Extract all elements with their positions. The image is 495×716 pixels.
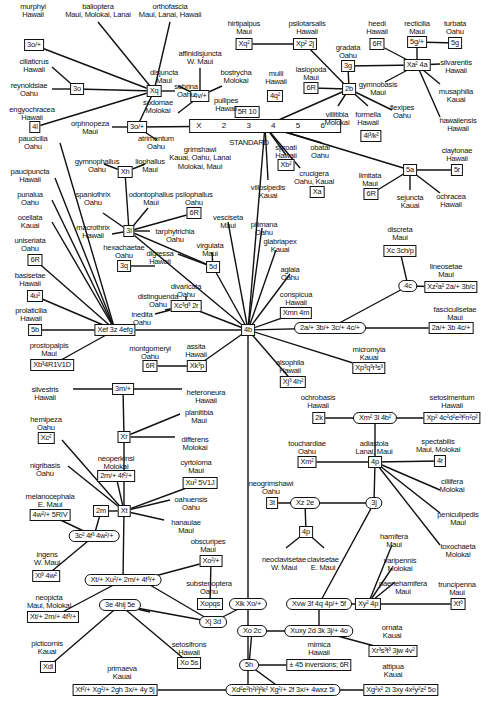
species-label: paucipunctaHawaii xyxy=(11,168,50,185)
karyotype-node-setosi_b: Xo 5s xyxy=(177,657,201,669)
connector-line xyxy=(228,222,248,330)
species-label: sodomaeMolokai xyxy=(143,99,173,116)
karyotype-node-xo2c: Xo 2c xyxy=(237,625,267,637)
karyotype-node-prola_b: 5b xyxy=(28,324,42,336)
karyotype-node-3t: 3t xyxy=(266,497,278,509)
karyotype-node-clay_b: 5r xyxy=(451,164,463,176)
karyotype-node-inv_b: ± 45 inversions; 6R xyxy=(286,659,351,671)
species-label: musaphiliaKauai xyxy=(439,88,473,105)
connector-line xyxy=(52,200,115,330)
karyotype-node-xt: Xt xyxy=(118,505,131,517)
karyotype-node-also_b: Xj³ 4h² xyxy=(280,376,306,388)
species-label: fasciculisetaeMaui xyxy=(434,306,477,323)
species-label: hawaiiensisHawaii xyxy=(439,117,476,134)
species-label: disjunctaMaui xyxy=(150,69,178,86)
species-label: flexipesOahu xyxy=(390,104,414,121)
karyotype-node-attipua_b: Xg²x² 2i 3xy 4x²y²z² 5o xyxy=(363,684,438,696)
karyotype-node-2b: 2b xyxy=(342,83,356,95)
karyotype-node-xik: Xik Xo/+ xyxy=(229,598,267,610)
species-label: aglaiaOahu xyxy=(280,266,299,283)
karyotype-node-primaeva_b: Xf²/+ Xg²/+ 2gh 3x/+ 4y 5j xyxy=(73,684,158,696)
species-label: baliopteraMaui, Molokai, Lanai xyxy=(65,3,131,20)
species-label: picticornisKauai xyxy=(31,640,63,657)
species-label: spaniothrixOahu xyxy=(76,191,111,208)
species-label: heediHawaii xyxy=(366,20,388,37)
karyotype-node-discreta_b: Xc 3ch/p xyxy=(383,245,416,257)
karyotype-node-setos_b: Xp² 4c²d²e²f²n²o² xyxy=(423,412,480,424)
connector-line xyxy=(375,462,440,490)
species-label: discretaMaui xyxy=(388,226,413,243)
species-label: virgulataMaui xyxy=(197,242,224,259)
species-label: digressaHawaii xyxy=(146,250,173,267)
karyotype-node-hemi_b: Xc² xyxy=(38,432,55,444)
karyotype-node-xh: Xh xyxy=(118,166,133,178)
karyotype-node-4p2: 4p xyxy=(299,526,313,538)
karyotype-node-hexa_b: 3q xyxy=(117,260,131,272)
karyotype-node-xd: Xd²e²h²i²j²k² Xg²/+ 2f 3x/+ 4wxz 5i xyxy=(225,684,340,696)
karyotype-node-xq: Xq xyxy=(147,85,162,97)
karyotype-node-3j: 3j xyxy=(365,497,382,509)
species-label: psilotarsalisHawaii xyxy=(288,20,325,37)
species-label: tarphytrichiaOahu xyxy=(156,228,195,245)
species-label: montgomeryiOahu xyxy=(129,345,171,362)
species-label: planitibiaMaui xyxy=(185,409,213,426)
karyotype-node-ornata_b: Xr³s³t³ 3jw 4v² xyxy=(369,645,418,657)
species-label: pauciciliaOahu xyxy=(18,135,47,152)
karyotype-node-cruc_b: Xa xyxy=(310,186,325,198)
species-label: adiastolaLanai, Maui xyxy=(355,440,392,457)
karyotype-node-xvw: Xvw 3f 4q 4p/+ 5f xyxy=(286,598,352,610)
karyotype-node-xy24p: Xy² 4p xyxy=(355,598,381,610)
karyotype-node-xmn: Xmn 4m xyxy=(280,307,312,319)
species-label: neoclavisetaeW. Maui xyxy=(262,556,306,573)
species-label: ochraceaHawaii xyxy=(436,193,466,210)
species-label: pilimanaOahu xyxy=(251,221,278,238)
connector-line xyxy=(248,330,369,368)
species-label: engyochraceaHawaii xyxy=(9,106,54,123)
karyotype-node-xuxy: Xuxy 2d 3k 3j/+ 4o xyxy=(284,625,353,637)
karyotype-node-turb_b: 5g xyxy=(448,37,462,49)
karyotype-node-5h: 5h xyxy=(239,659,259,671)
species-label: attipuaKauai xyxy=(382,663,403,680)
species-label: uniseriataOahu xyxy=(15,237,46,254)
species-label: oahuensisOahu xyxy=(175,496,208,513)
species-label: pullipesHawaii xyxy=(214,97,238,114)
species-label: crucigeraOahu, Kauai xyxy=(294,170,334,187)
karyotype-node-5d: 5d xyxy=(206,261,220,273)
species-label: differensMolokai xyxy=(181,436,208,453)
species-label: distinguendaOahu xyxy=(138,293,179,310)
species-label: substenopteraOahu xyxy=(186,580,232,597)
karyotype-node-3m: 3m/+ xyxy=(112,383,134,395)
connector-line xyxy=(123,389,124,437)
karyotype-node-5a: 5a xyxy=(403,164,417,176)
connector-line xyxy=(124,500,170,511)
connector-line xyxy=(124,414,180,437)
species-label: hemipezaOahu xyxy=(30,416,61,433)
species-label: obataiOahu xyxy=(310,144,330,161)
connector-line xyxy=(248,250,276,330)
species-label: turbataOahu xyxy=(444,20,466,37)
connector-line xyxy=(375,461,440,462)
karyotype-node-micro_b: Xp³q³r³s³ xyxy=(352,362,385,374)
species-label: lineosetaeMaui xyxy=(430,263,463,280)
species-label: punaluaOahu xyxy=(17,191,43,208)
karyotype-node-ingens_b: Xl³ 4w² xyxy=(32,570,60,582)
species-label: orphnopezaMaui xyxy=(71,120,109,137)
species-label: sejunctaKauai xyxy=(397,194,424,211)
karyotype-node-assita_b: Xk³p xyxy=(187,360,207,372)
species-label: recticiliaMaui xyxy=(404,20,429,37)
karyotype-node-4p: 4p xyxy=(368,456,382,468)
species-label: gymnobasisMaui xyxy=(359,81,398,98)
species-label: hamiferaMaui xyxy=(380,533,408,550)
species-label: bostrychaMolokai xyxy=(220,69,251,86)
karyotype-node-grad_b: 3g xyxy=(341,60,355,72)
species-label: basisetaeHawaii xyxy=(15,272,46,289)
species-label: clavisetaeE. Maui xyxy=(307,556,339,573)
species-label: ocellataKauai xyxy=(18,214,43,231)
species-label: peniculipedisMaui xyxy=(437,511,478,528)
karyotype-node-xef: Xef 3z 4efg xyxy=(94,324,135,336)
species-label: nigribasisOahu xyxy=(30,462,60,479)
species-label: gradataOahu xyxy=(336,44,360,61)
species-label: paenehamiferaMaui xyxy=(379,580,427,597)
species-label: STANDARD xyxy=(229,139,269,147)
species-label: micromyiaKauai xyxy=(353,346,386,363)
